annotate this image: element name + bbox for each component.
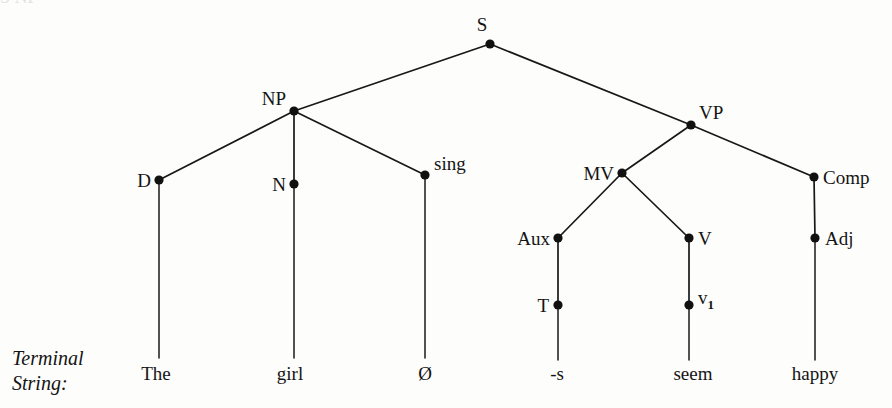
node-dot-t	[553, 300, 562, 309]
node-dot-aux	[553, 233, 562, 242]
tree-edge-s-to-np	[294, 44, 490, 111]
node-label-comp: Comp	[823, 167, 869, 188]
syntax-tree-figure: S NP SNPVPDNsingMVCompAuxVAdjTv1 Thegirl…	[0, 0, 892, 408]
tree-edge-mv-to-v	[622, 173, 689, 238]
caption-layer: TerminalString:	[12, 347, 84, 395]
terminal-stem-layer	[159, 175, 815, 360]
node-label-d: D	[137, 170, 151, 191]
terminal-happy: happy	[792, 363, 839, 384]
node-dot-s	[485, 39, 494, 48]
node-label-n: N	[272, 174, 286, 195]
terminal-s: -s	[550, 363, 564, 384]
node-label-adj: Adj	[825, 228, 854, 249]
tree-edge-vp-to-comp	[691, 125, 814, 177]
node-label-s: S	[477, 14, 488, 35]
tree-edge-vp-to-mv	[622, 125, 691, 173]
node-dot-layer	[154, 39, 819, 309]
node-dot-comp	[809, 172, 818, 181]
node-dot-np	[289, 106, 298, 115]
node-dot-v	[684, 233, 693, 242]
node-label-mv: MV	[583, 163, 614, 184]
node-label-np: NP	[262, 88, 286, 109]
node-label-v1: v1	[698, 287, 714, 312]
terminal-girl: girl	[277, 363, 303, 384]
node-dot-sing	[420, 170, 429, 179]
caption-line-2: String:	[12, 372, 68, 395]
tree-edge-np-to-d	[159, 111, 294, 180]
node-dot-n	[289, 179, 298, 188]
node-label-sing: sing	[434, 153, 466, 174]
node-label-aux: Aux	[517, 228, 550, 249]
tree-edge-comp-to-adj	[814, 177, 815, 238]
node-label-v: V	[698, 228, 712, 249]
node-dot-d	[154, 175, 163, 184]
node-dot-vp	[686, 120, 695, 129]
node-label-t: T	[537, 295, 549, 316]
terminal-label-layer: ThegirlØ-sseemhappy	[141, 363, 838, 384]
node-label-vp: VP	[699, 102, 723, 123]
node-label-v1-subscript: 1	[708, 297, 715, 312]
terminal-seem: seem	[673, 363, 712, 384]
node-dot-mv	[617, 168, 626, 177]
node-dot-v1	[684, 300, 693, 309]
terminal-zero: Ø	[418, 363, 432, 384]
tree-canvas: SNPVPDNsingMVCompAuxVAdjTv1 ThegirlØ-sse…	[0, 0, 892, 408]
node-dot-adj	[810, 233, 819, 242]
tree-edge-np-to-sing	[294, 111, 425, 175]
node-label-layer: SNPVPDNsingMVCompAuxVAdjTv1	[137, 14, 869, 316]
edge-layer	[159, 44, 815, 305]
terminal-the: The	[141, 363, 171, 384]
caption-line-1: Terminal	[12, 347, 84, 369]
tree-edge-s-to-vp	[490, 44, 691, 125]
